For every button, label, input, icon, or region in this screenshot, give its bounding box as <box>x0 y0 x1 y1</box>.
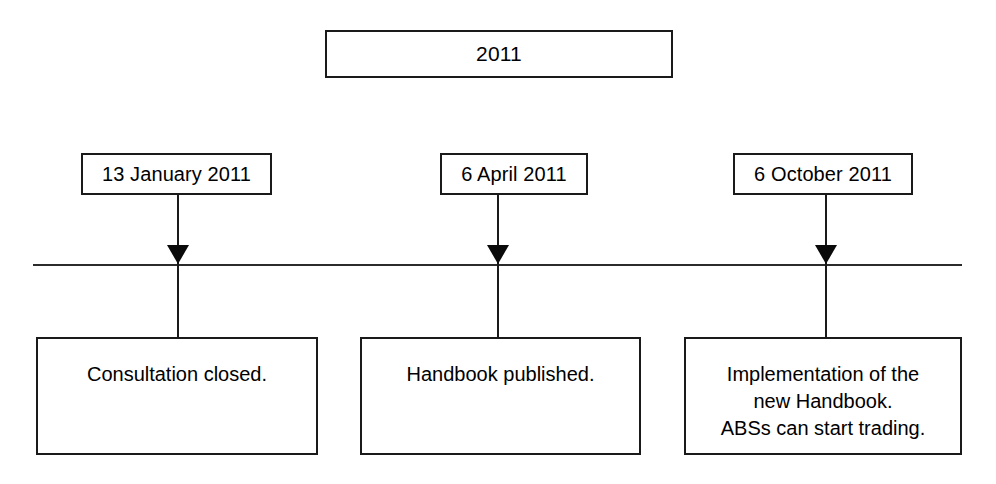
date-label-1: 6 April 2011 <box>461 163 566 186</box>
timeline-title-label: 2011 <box>476 42 522 66</box>
event-text-line: Handbook published. <box>407 361 595 388</box>
date-label-2: 6 October 2011 <box>754 163 892 186</box>
connector-line-0 <box>177 195 179 337</box>
event-box-2: Implementation of the new Handbook. ABSs… <box>684 337 962 455</box>
event-text-line: Implementation of the <box>727 361 919 388</box>
date-box-1: 6 April 2011 <box>440 153 588 195</box>
arrow-down-icon-1 <box>487 245 509 264</box>
date-box-2: 6 October 2011 <box>733 153 913 195</box>
connector-line-1 <box>497 195 499 337</box>
date-label-0: 13 January 2011 <box>102 163 251 186</box>
timeline-diagram: 2011 13 January 2011 Consultation closed… <box>0 0 996 484</box>
event-text-line: Consultation closed. <box>87 361 267 388</box>
connector-line-2 <box>825 195 827 337</box>
date-box-0: 13 January 2011 <box>81 153 272 195</box>
event-box-1: Handbook published. <box>360 337 641 455</box>
arrow-down-icon-0 <box>167 245 189 264</box>
event-text-line: new Handbook. <box>754 388 893 415</box>
event-box-0: Consultation closed. <box>36 337 318 455</box>
event-text-line: ABSs can start trading. <box>721 415 926 442</box>
arrow-down-icon-2 <box>815 245 837 264</box>
timeline-title-box: 2011 <box>325 30 673 78</box>
